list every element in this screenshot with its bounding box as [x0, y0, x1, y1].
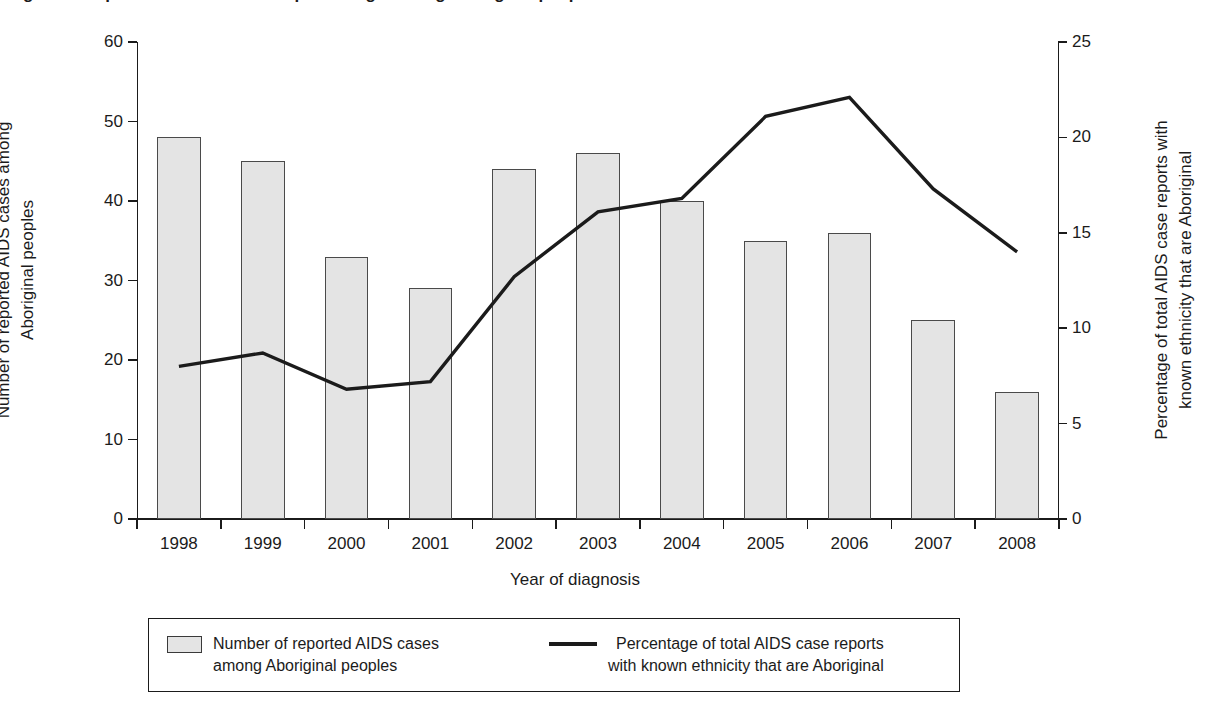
y-axis-right-title-text: Percentage of total AIDS case reports wi… — [1150, 60, 1198, 500]
y-right-tick-label: 25 — [1072, 32, 1091, 52]
x-tick-label: 1998 — [160, 534, 198, 554]
y-left-tick-mark — [128, 359, 137, 361]
x-tick-mark — [723, 519, 725, 529]
y-right-tick-mark — [1058, 41, 1067, 43]
x-tick-label: 2008 — [998, 534, 1036, 554]
y-right-tick-label: 20 — [1072, 127, 1091, 147]
x-tick-mark — [639, 519, 641, 529]
y-right-tick-mark — [1058, 137, 1067, 139]
y-axis-left-title-text: Number of reported AIDS cases among Abor… — [0, 50, 40, 490]
y-left-tick-label: 0 — [114, 509, 123, 529]
x-tick-mark — [472, 519, 474, 529]
y-right-tick-label: 10 — [1072, 318, 1091, 338]
legend-box: Number of reported AIDS cases among Abor… — [148, 618, 960, 692]
x-tick-label: 1999 — [244, 534, 282, 554]
x-tick-label: 2001 — [411, 534, 449, 554]
percentage-line — [179, 97, 1017, 389]
bar-swatch-icon — [167, 636, 202, 653]
x-axis-title: Year of diagnosis — [0, 570, 1150, 590]
line-series-group — [137, 42, 1059, 519]
y-left-tick-label: 40 — [104, 191, 123, 211]
y-left-tick-label: 60 — [104, 32, 123, 52]
y-right-tick-mark — [1058, 327, 1067, 329]
x-tick-mark — [220, 519, 222, 529]
y-left-tick-mark — [128, 121, 137, 123]
x-tick-mark — [304, 519, 306, 529]
y-right-tick-label: 5 — [1072, 414, 1081, 434]
x-tick-label: 2002 — [495, 534, 533, 554]
y-left-tick-label: 50 — [104, 112, 123, 132]
x-tick-mark — [1058, 519, 1060, 529]
legend-item-bars: Number of reported AIDS cases among Abor… — [167, 633, 439, 677]
y-right-tick-label: 0 — [1072, 509, 1081, 529]
figure-aids-cases-aboriginal: Figure 1. Reported AIDS cases and percen… — [0, 0, 1210, 721]
y-left-tick-label: 20 — [104, 350, 123, 370]
x-tick-mark — [807, 519, 809, 529]
y-left-tick-mark — [128, 41, 137, 43]
x-tick-label: 2006 — [831, 534, 869, 554]
x-tick-mark — [388, 519, 390, 529]
x-tick-mark — [974, 519, 976, 529]
x-tick-label: 2005 — [747, 534, 785, 554]
y-left-tick-mark — [128, 280, 137, 282]
y-right-tick-mark — [1058, 232, 1067, 234]
line-swatch-icon — [549, 642, 597, 646]
x-tick-label: 2003 — [579, 534, 617, 554]
x-tick-mark — [891, 519, 893, 529]
x-tick-mark — [136, 519, 138, 529]
y-right-tick-mark — [1058, 423, 1067, 425]
y-left-tick-label: 10 — [104, 430, 123, 450]
x-tick-label: 2007 — [914, 534, 952, 554]
x-tick-label: 2004 — [663, 534, 701, 554]
x-tick-mark — [555, 519, 557, 529]
figure-title-clipped: Figure 1. Reported AIDS cases and percen… — [0, 0, 1210, 12]
y-left-tick-mark — [128, 200, 137, 202]
legend-label-bars: Number of reported AIDS cases among Abor… — [213, 633, 439, 677]
y-left-tick-mark — [128, 439, 137, 441]
y-right-tick-label: 15 — [1072, 223, 1091, 243]
legend-item-line: Percentage of total AIDS case reports wi… — [549, 633, 884, 677]
x-tick-label: 2000 — [328, 534, 366, 554]
figure-title-text: Figure 1. Reported AIDS cases and percen… — [8, 0, 603, 4]
legend-label-line: Percentage of total AIDS case reports wi… — [608, 633, 884, 677]
plot-area: 0102030405060 0510152025 199819992000200… — [137, 42, 1059, 519]
y-left-tick-label: 30 — [104, 271, 123, 291]
